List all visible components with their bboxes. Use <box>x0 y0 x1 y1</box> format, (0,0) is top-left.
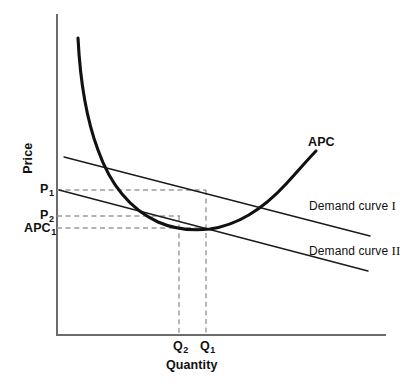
x-tick-label-q1: Q1 <box>200 340 215 353</box>
y-tick-label-apc1: APC1 <box>24 222 56 235</box>
demand-curve-2-label: Demand curve II <box>309 244 400 257</box>
y-tick-label-p2: P2 <box>40 209 54 222</box>
x-tick-q2-base: Q <box>173 339 183 353</box>
apc-curve-path <box>78 38 316 230</box>
demand-curve-1-line <box>64 157 370 236</box>
demand-curve-2-label-text: Demand curve <box>309 244 388 258</box>
apc-curve-label: APC <box>308 136 335 149</box>
y-tick-apc1-subscript: 1 <box>51 227 56 237</box>
y-axis-title: Price <box>22 143 35 174</box>
chart-plot-area <box>0 0 403 387</box>
y-tick-p1-base: P <box>40 182 48 196</box>
economics-chart-figure: Price Quantity P1 P2 APC1 Q2 Q1 APC Dema… <box>0 0 403 387</box>
y-tick-p1-subscript: 1 <box>49 188 54 198</box>
x-tick-label-q2: Q2 <box>173 340 188 353</box>
y-tick-label-p1: P1 <box>40 183 54 196</box>
y-tick-apc1-base: APC <box>24 221 51 235</box>
y-tick-p2-base: P <box>40 208 48 222</box>
guide-lines <box>57 190 206 334</box>
axis-lines <box>56 14 386 335</box>
demand-curve-1-numeral: I <box>388 198 396 213</box>
x-axis-title: Quantity <box>166 359 218 372</box>
x-tick-q2-subscript: 2 <box>183 345 188 355</box>
demand-curve-1-label-text: Demand curve <box>309 199 388 213</box>
x-tick-q1-subscript: 1 <box>210 345 215 355</box>
demand-curve-1-label: Demand curve I <box>309 199 396 212</box>
x-tick-q1-base: Q <box>200 339 210 353</box>
demand-curve-2-numeral: II <box>388 243 400 258</box>
